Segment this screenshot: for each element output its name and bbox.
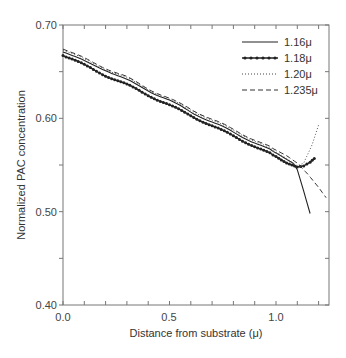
y-axis-label: Normalized PAC concentration <box>15 90 27 240</box>
series-line <box>63 52 310 214</box>
legend-swatch-solid-dots <box>242 56 278 59</box>
y-tick-label: 0.40 <box>36 299 57 311</box>
x-axis-label: Distance from substrate (μ) <box>130 327 263 339</box>
legend-label: 1.20μ <box>284 68 312 80</box>
x-tick-label: 0.0 <box>55 311 70 323</box>
y-tick-label: 0.60 <box>36 112 57 124</box>
series-line <box>63 50 319 166</box>
legend: 1.16μ 1.18μ 1.20μ 1.235μ <box>242 36 318 96</box>
x-tick-label: 1.0 <box>268 311 283 323</box>
legend-label: 1.235μ <box>284 84 318 96</box>
y-tick-label: 0.50 <box>36 206 57 218</box>
line-chart: 0.70 0.60 0.50 0.40 0.0 0.5 1.0 Distance… <box>0 0 346 358</box>
y-tick-label: 0.70 <box>36 19 57 31</box>
x-tick-label: 0.5 <box>161 311 176 323</box>
legend-label: 1.18μ <box>284 52 312 64</box>
legend-label: 1.16μ <box>284 36 312 48</box>
